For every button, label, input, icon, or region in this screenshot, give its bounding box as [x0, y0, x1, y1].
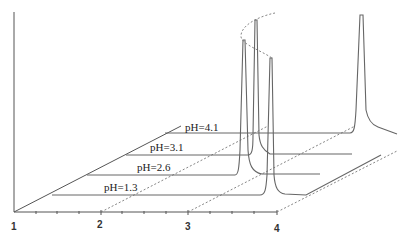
- label-ph26: pH=2.6: [137, 161, 171, 173]
- label-ph31: pH=3.1: [150, 141, 183, 153]
- tick-2: 2: [97, 219, 103, 230]
- peak-ph31: [248, 20, 352, 155]
- depth-guide-2: [101, 126, 268, 212]
- waterfall-chart: pH=4.1 pH=3.1 pH=2.6 pH=1.3 1 2 3 4: [0, 0, 407, 243]
- label-ph41: pH=4.1: [185, 121, 218, 133]
- tick-3: 3: [185, 221, 191, 232]
- depth-guide-4: [277, 151, 397, 212]
- depth-guide-3: [188, 126, 355, 212]
- peak-ph41: [350, 15, 397, 134]
- tick-1: 1: [11, 221, 17, 232]
- label-ph13: pH=1.3: [104, 181, 138, 193]
- tick-4: 4: [274, 223, 280, 234]
